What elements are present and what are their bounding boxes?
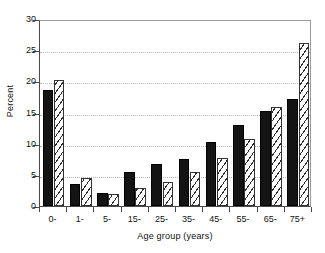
bar-solid-1- — [70, 184, 81, 206]
x-axis-tick — [229, 207, 230, 212]
bar-group — [122, 21, 149, 206]
bar-group — [149, 21, 176, 206]
bar-solid-0- — [43, 90, 54, 206]
bar-solid-15- — [124, 172, 135, 206]
bar-group — [94, 21, 121, 206]
x-axis-tick — [39, 207, 40, 212]
x-axis-tick — [148, 207, 149, 212]
y-axis-tick-label: 0 — [12, 202, 36, 211]
bar-group — [67, 21, 94, 206]
bar-solid-55- — [233, 125, 244, 206]
bar-hatched-35- — [190, 172, 201, 206]
bar-group — [285, 21, 311, 206]
y-axis-tick-label: 25 — [12, 46, 36, 55]
bar-hatched-55- — [244, 139, 255, 206]
bar-solid-65- — [260, 111, 271, 206]
bar-solid-5- — [97, 193, 108, 206]
bar-solid-35- — [179, 159, 190, 206]
x-axis-tick-label: 75+ — [277, 214, 317, 224]
x-axis-tick — [175, 207, 176, 212]
x-axis-tick — [66, 207, 67, 212]
x-axis-title: Age group (years) — [39, 231, 311, 241]
plot-area — [39, 20, 311, 207]
y-axis-tick-label: 20 — [12, 77, 36, 86]
bar-group — [203, 21, 230, 206]
bar-group — [258, 21, 285, 206]
y-axis-tick-label: 15 — [12, 109, 36, 118]
bar-hatched-75+ — [299, 43, 310, 206]
bar-hatched-1- — [81, 178, 92, 206]
x-axis-tick — [284, 207, 285, 212]
y-axis-tick-label: 10 — [12, 140, 36, 149]
bar-solid-75+ — [287, 99, 298, 206]
x-axis-tick — [202, 207, 203, 212]
bar-hatched-65- — [271, 107, 282, 206]
x-axis-tick — [93, 207, 94, 212]
bar-hatched-15- — [135, 188, 146, 206]
x-axis-tick — [121, 207, 122, 212]
bar-group — [230, 21, 257, 206]
bar-group — [40, 21, 67, 206]
x-axis-tick — [311, 207, 312, 212]
x-axis-tick — [257, 207, 258, 212]
bar-solid-25- — [151, 164, 162, 206]
bar-hatched-25- — [163, 182, 174, 206]
bar-hatched-5- — [108, 194, 119, 206]
bar-hatched-45- — [217, 158, 228, 206]
bar-group — [176, 21, 203, 206]
bar-chart: Percent 051015202530 0-1-5-15-25-35-45-5… — [0, 0, 325, 253]
y-axis-tick-label: 5 — [12, 171, 36, 180]
bar-hatched-0- — [54, 80, 65, 206]
bar-solid-45- — [206, 142, 217, 206]
y-axis-tick-label: 30 — [12, 15, 36, 24]
